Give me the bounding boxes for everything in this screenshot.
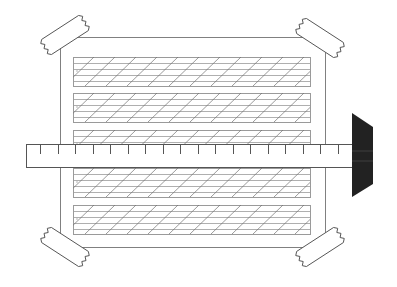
clamp-block (352, 113, 373, 197)
ruler (27, 144, 353, 168)
panel-marker-dot (76, 106, 78, 108)
panel-marker-dot (76, 218, 78, 220)
clamp (352, 113, 373, 197)
board-diagram (0, 0, 397, 287)
diagram-canvas (0, 0, 397, 287)
panel-marker-dot (76, 70, 78, 72)
panel-marker-dot (76, 181, 78, 183)
